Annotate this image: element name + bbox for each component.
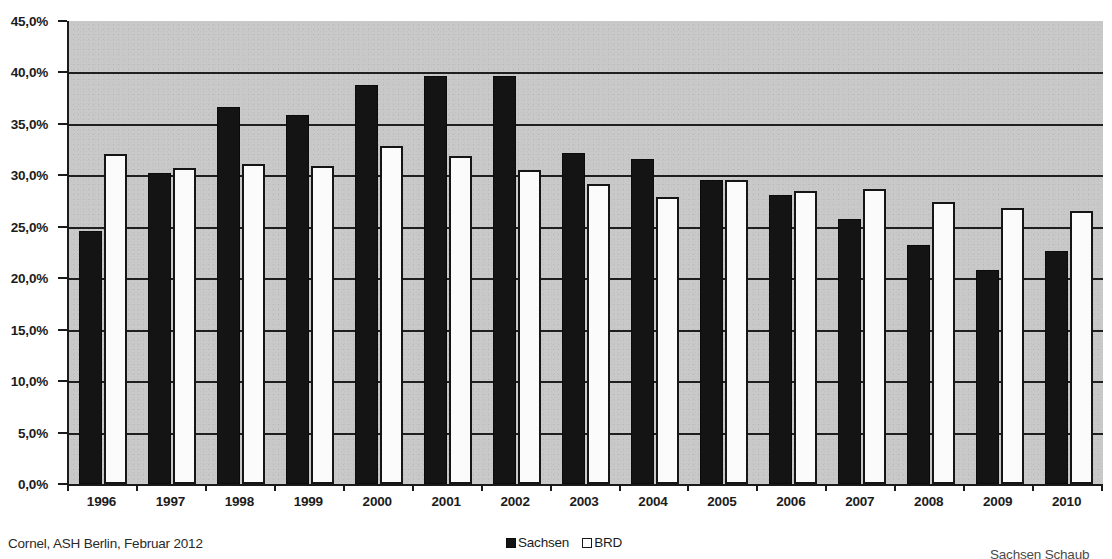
x-tick-cell [67,484,136,492]
x-tick-cell [481,484,550,492]
y-tick-mark [58,174,67,176]
x-tick-cell [205,484,274,492]
bar-sachsen-1997 [148,173,171,484]
x-tick-cell [756,484,825,492]
bar-brd-1997 [173,168,196,484]
x-tick-mark [412,484,414,491]
bar-brd-2007 [863,189,886,484]
x-tick-mark [1032,484,1034,491]
legend-item-brd: BRD [582,535,622,550]
bar-brd-2009 [1001,208,1024,484]
y-tick-mark [58,329,67,331]
bar-group-1997 [138,21,207,484]
bar-sachsen-1998 [217,107,240,484]
bar-group-2006 [758,21,827,484]
bar-group-1999 [276,21,345,484]
x-tick-cell [894,484,963,492]
y-tick-label: 5,0% [18,425,48,440]
x-tick-cell [687,484,756,492]
bar-brd-2000 [380,146,403,485]
x-tick-label-2008: 2008 [894,494,963,514]
y-tick-mark [58,71,67,73]
y-tick-mark [58,380,67,382]
y-tick-mark [58,20,67,22]
x-tick-label-2004: 2004 [619,494,688,514]
bar-sachsen-2008 [907,245,930,484]
x-tick-mark [825,484,827,491]
x-tick-label-2007: 2007 [825,494,894,514]
x-tick-mark [756,484,758,491]
x-tick-mark [619,484,621,491]
x-tick-cell [619,484,688,492]
bar-brd-2003 [587,184,610,484]
x-tick-label-2001: 2001 [412,494,481,514]
y-tick-label: 0,0% [18,477,48,492]
y-tick-mark [58,277,67,279]
bar-group-2001 [414,21,483,484]
bar-group-1998 [207,21,276,484]
bar-brd-2008 [932,202,955,484]
legend-swatch-icon [506,538,516,548]
bar-sachsen-2002 [493,76,516,484]
y-tick-label: 25,0% [11,219,48,234]
x-tick-cell [343,484,412,492]
x-tick-label-2006: 2006 [756,494,825,514]
bar-sachsen-2001 [424,76,447,484]
y-tick-mark [58,226,67,228]
x-tick-label-2003: 2003 [550,494,619,514]
y-tick-label: 15,0% [11,322,48,337]
x-tick-cell [274,484,343,492]
bar-sachsen-2006 [769,195,792,484]
bar-brd-2010 [1070,211,1093,484]
bar-group-2010 [1034,21,1103,484]
x-tick-label-1996: 1996 [67,494,136,514]
bar-group-2009 [965,21,1034,484]
x-axis-tick-marks [67,484,1101,492]
bar-sachsen-2009 [976,270,999,484]
x-axis-labels: 1996199719981999200020012002200320042005… [67,494,1101,514]
x-tick-mark [274,484,276,491]
x-tick-mark [963,484,965,491]
x-tick-mark [205,484,207,491]
y-tick-mark [58,123,67,125]
bar-brd-2005 [725,180,748,484]
x-tick-cell [550,484,619,492]
x-tick-mark [1101,484,1103,491]
x-tick-mark [550,484,552,491]
bar-brd-2004 [656,197,679,484]
x-tick-cell [136,484,205,492]
x-tick-mark [687,484,689,491]
x-tick-cell [1032,484,1101,492]
bar-group-1996 [69,21,138,484]
x-tick-label-2002: 2002 [481,494,550,514]
y-axis: 0,0%5,0%10,0%15,0%20,0%25,0%30,0%35,0%40… [0,0,58,500]
legend-item-sachsen: Sachsen [506,535,569,550]
x-tick-cell [412,484,481,492]
x-tick-mark [67,484,69,491]
bar-sachsen-1999 [286,115,309,484]
y-tick-mark [58,432,67,434]
y-tick-label: 45,0% [11,14,48,29]
bar-brd-2001 [449,156,472,484]
bar-brd-2006 [794,191,817,484]
bar-sachsen-2000 [355,85,378,484]
bar-sachsen-2003 [562,153,585,484]
legend-label: Sachsen [518,535,569,550]
x-tick-mark [481,484,483,491]
x-tick-mark [343,484,345,491]
bar-sachsen-1996 [79,231,102,484]
x-tick-cell [825,484,894,492]
x-tick-mark [894,484,896,491]
y-tick-label: 35,0% [11,116,48,131]
bar-brd-1998 [242,164,265,484]
plot-area [67,21,1103,486]
bar-chart-figure: 0,0%5,0%10,0%15,0%20,0%25,0%30,0%35,0%40… [0,0,1112,559]
legend: SachsenBRD [506,535,622,550]
x-tick-label-2010: 2010 [1032,494,1101,514]
bar-brd-2002 [518,170,541,484]
y-tick-label: 40,0% [11,65,48,80]
bar-brd-1996 [104,154,127,484]
x-tick-mark [136,484,138,491]
legend-label: BRD [594,535,622,550]
x-tick-label-1999: 1999 [274,494,343,514]
